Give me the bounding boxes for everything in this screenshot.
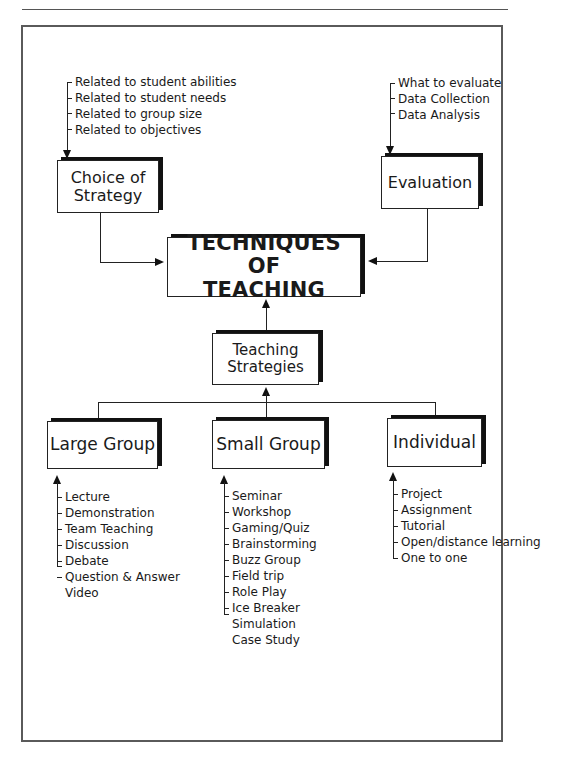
connector-choice-vertical xyxy=(100,213,101,263)
box-label: Individual xyxy=(393,433,476,452)
bracket-tick xyxy=(57,561,62,562)
bracket-tick xyxy=(57,577,62,578)
bracket-tick xyxy=(67,82,72,83)
diagram-title: TECHNIQUES OF xyxy=(168,232,360,279)
bracket-tick xyxy=(224,496,229,497)
evaluation-factors-list: What to evaluate Data Collection Data An… xyxy=(398,75,501,123)
list-item: Seminar xyxy=(232,488,317,504)
list-item: Field trip xyxy=(232,568,317,584)
bracket-tick xyxy=(393,558,398,559)
list-item: Related to group size xyxy=(75,106,237,122)
list-item: Role Play xyxy=(232,584,317,600)
list-item: Video xyxy=(65,585,180,601)
list-item: Open/distance learning xyxy=(401,534,541,550)
list-item: Demonstration xyxy=(65,505,180,521)
list-item: Tutorial xyxy=(401,518,541,534)
choice-of-strategy-box: Choice of Strategy xyxy=(57,160,159,213)
list-item: Question & Answer xyxy=(65,569,180,585)
list-item: Related to student needs xyxy=(75,90,237,106)
list-item: What to evaluate xyxy=(398,75,501,91)
connector-evaluation-horizontal xyxy=(375,261,428,262)
small-group-box: Small Group xyxy=(212,420,325,469)
connector-strategies-up xyxy=(266,305,267,332)
bracket-tick xyxy=(67,113,72,114)
bracket-tick xyxy=(224,544,229,545)
list-item: Assignment xyxy=(401,502,541,518)
bracket-tick xyxy=(393,510,398,511)
choice-factors-list: Related to student abilities Related to … xyxy=(75,74,237,138)
box-label: Choice of xyxy=(71,169,146,187)
bracket-tick xyxy=(67,129,72,130)
individual-list: Project Assignment Tutorial Open/distanc… xyxy=(401,486,541,566)
bracket-tick xyxy=(390,98,395,99)
bracket-tick xyxy=(224,608,229,609)
list-item: Related to objectives xyxy=(75,122,237,138)
teaching-strategies-box: Teaching Strategies xyxy=(212,333,319,385)
bracket-tick xyxy=(57,566,62,567)
bracket-tick xyxy=(390,83,395,84)
box-label: Teaching xyxy=(227,342,304,359)
large-group-box: Large Group xyxy=(47,421,158,469)
bracket-tick xyxy=(57,497,62,498)
individual-bracket xyxy=(393,479,394,559)
bracket-tick xyxy=(393,542,398,543)
list-item: Buzz Group xyxy=(232,552,317,568)
small-group-list: Seminar Workshop Gaming/Quiz Brainstormi… xyxy=(232,488,317,648)
connector-bus-stem xyxy=(266,393,267,420)
box-label: Small Group xyxy=(216,435,320,454)
arrow-down-icon xyxy=(63,150,71,159)
page-header-rule xyxy=(22,9,508,10)
list-item: Data Collection xyxy=(398,91,501,107)
bracket-tick xyxy=(67,98,72,99)
connector-individual xyxy=(435,402,436,418)
list-item: Simulation xyxy=(232,616,317,632)
arrow-left-icon xyxy=(368,257,377,265)
bracket-tick xyxy=(393,526,398,527)
bracket-tick xyxy=(57,529,62,530)
list-item: Brainstorming xyxy=(232,536,317,552)
box-label: Strategy xyxy=(71,187,146,205)
bracket-tick xyxy=(224,512,229,513)
bracket-tick xyxy=(393,494,398,495)
connector-choice-horizontal xyxy=(100,262,157,263)
bracket-tick xyxy=(224,592,229,593)
bracket-tick xyxy=(390,113,395,114)
list-item: Case Study xyxy=(232,632,317,648)
bracket-tick xyxy=(57,545,62,546)
list-item: Data Analysis xyxy=(398,107,501,123)
bracket-tick xyxy=(224,576,229,577)
list-item: Project xyxy=(401,486,541,502)
evaluation-factors-bracket xyxy=(390,83,391,148)
individual-box: Individual xyxy=(387,418,482,467)
box-label: Evaluation xyxy=(388,174,472,192)
list-item: Related to student abilities xyxy=(75,74,237,90)
arrow-up-icon xyxy=(262,299,270,308)
arrow-down-icon xyxy=(386,146,394,155)
list-item: Ice Breaker xyxy=(232,600,317,616)
list-item: Lecture xyxy=(65,489,180,505)
list-item: Gaming/Quiz xyxy=(232,520,317,536)
arrow-right-icon xyxy=(155,258,164,266)
box-label: Large Group xyxy=(50,435,155,454)
list-item: Team Teaching xyxy=(65,521,180,537)
bracket-tick xyxy=(224,560,229,561)
list-item: One to one xyxy=(401,550,541,566)
box-label: Strategies xyxy=(227,359,304,376)
large-group-bracket xyxy=(57,482,58,567)
techniques-of-teaching-box: TECHNIQUES OF TEACHING xyxy=(167,237,361,297)
connector-evaluation-vertical xyxy=(427,209,428,262)
list-item: Debate xyxy=(65,553,180,569)
small-group-bracket xyxy=(224,482,225,615)
large-group-list: Lecture Demonstration Team Teaching Disc… xyxy=(65,489,180,601)
evaluation-box: Evaluation xyxy=(381,156,479,209)
choice-factors-bracket xyxy=(67,82,68,152)
list-item: Workshop xyxy=(232,504,317,520)
connector-bus-horizontal xyxy=(98,402,435,403)
list-item: Discussion xyxy=(65,537,180,553)
bracket-tick xyxy=(57,513,62,514)
bracket-tick xyxy=(224,614,229,615)
bracket-tick xyxy=(224,528,229,529)
connector-large-group xyxy=(98,402,99,420)
